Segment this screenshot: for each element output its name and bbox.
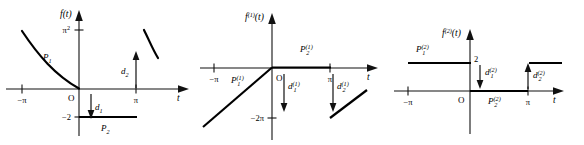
chart-panel-2: f(1)(t) t O −π π −2π P(1)1 P(1)2 d(1)1 d… [195, 0, 390, 145]
panel1-x-axis-label: t [177, 93, 180, 103]
panel1-jump-arrow-d2 [133, 51, 140, 88]
panel3-origin-label: O [458, 95, 465, 105]
panel3-label-d2: d(2)2 [533, 69, 545, 82]
panel2-label-d1: d(1)1 [288, 80, 300, 93]
panel2-ticklabel-neg-pi: −π [209, 74, 219, 84]
panel3-label-P1: P(2)1 [415, 43, 429, 56]
panel1-ticklabel-pi: π [134, 95, 139, 105]
panel2-y-axis [268, 13, 276, 140]
panel1-ticklabel-pi-squared: π2 [63, 24, 70, 35]
panel2-origin-label: O [276, 73, 283, 83]
y-axis-arrowhead [268, 13, 276, 24]
panel3-x-axis-label: t [553, 95, 556, 105]
panel2-y-axis-label: f(1)(t) [245, 11, 264, 23]
panel1-jump-arrow-d1 [88, 94, 95, 119]
x-axis-arrowhead [367, 64, 378, 72]
panel3-ticklabel-pi: π [526, 97, 531, 107]
figure-root: f(t) t O −π π π2 −2 P1 P2 d1 d2 [0, 0, 584, 145]
panel3-label-P2: P(2)2 [487, 95, 501, 108]
panel1-y-axis-label: f(t) [60, 9, 72, 20]
panel1-label-P2: P2 [100, 123, 110, 135]
panel2-label-P2: P(1)2 [299, 43, 313, 56]
chart-panel-1: f(t) t O −π π π2 −2 P1 P2 d1 d2 [0, 0, 195, 145]
panel3-y-axis [466, 29, 474, 134]
y-axis-arrowhead [466, 29, 474, 40]
panel1-label-d1: d1 [95, 102, 103, 114]
panel1-curve-branch-after-pi [144, 30, 158, 58]
panel2-label-P1: P(1)1 [230, 74, 244, 87]
panel2-label-d2: d(1)2 [337, 80, 349, 93]
x-axis-arrowhead [553, 87, 564, 95]
panel3-label-d1: d(2)1 [485, 66, 497, 79]
x-axis-arrowhead [178, 85, 189, 93]
panel2-ticklabel-neg-two-pi: −2π [251, 113, 265, 123]
panel2-ticklabel-pi: π [328, 74, 333, 84]
panel1-ticklabel-neg-pi: −π [17, 95, 27, 105]
panel1-label-d2: d2 [121, 66, 129, 78]
panel1-origin-label: O [68, 93, 75, 103]
panel3-jump-arrow-d1 [477, 65, 484, 89]
panel2-x-axis-label: t [367, 72, 370, 82]
panel1-label-P1: P1 [42, 52, 52, 64]
panel1-x-axis [6, 85, 189, 93]
panel3-ticklabel-neg-pi: −π [403, 97, 413, 107]
panel3-jump-arrow-d2 [525, 63, 532, 89]
panel1-ticklabel-minus-two: −2 [62, 112, 71, 122]
chart-panel-3: f(2)(t) t O −π π 2 P(2)1 P(2)2 d(2)1 d(2… [390, 0, 584, 145]
y-axis-arrowhead [75, 10, 83, 21]
panel3-y-axis-label: f(2)(t) [442, 27, 461, 39]
panel3-ticklabel-two: 2 [474, 54, 478, 64]
